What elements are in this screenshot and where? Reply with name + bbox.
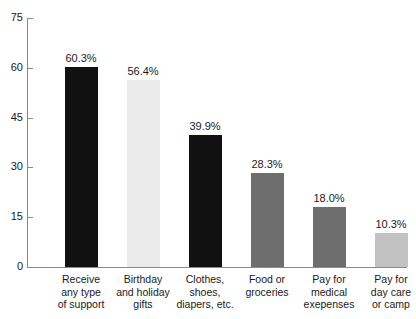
y-axis-tick-label-text: 45 [1,112,23,123]
y-axis-tick-label-text: 0 [1,261,23,272]
x-axis-line [27,267,407,268]
bar-value-label: 60.3% [50,52,112,64]
bar[interactable] [65,67,98,267]
bar-value-label: 39.9% [174,120,236,132]
x-axis-category-label-line: Pay for [354,273,416,286]
plot-area: 60.3%56.4%39.9%28.3%18.0%10.3% [28,18,407,267]
y-axis-tick-label: 0 [0,261,23,272]
y-axis-tick-label-text: 75 [1,12,23,23]
y-axis-tick-label-text: 15 [1,211,23,222]
bar-value-label: 18.0% [298,192,360,204]
bar[interactable] [375,233,408,267]
y-axis-tick-label: 30 [0,161,23,172]
bar-value-label: 10.3% [360,218,416,230]
bar-slot: 56.4% [112,18,174,267]
bar-slot: 28.3% [236,18,298,267]
y-axis-tick-label: 15 [0,211,23,222]
y-axis-tick-label: 75 [0,12,23,23]
bar-slot: 60.3% [50,18,112,267]
bar-value-label: 28.3% [236,158,298,170]
x-axis-category-label-line: diapers, etc. [168,298,242,311]
y-axis-tick-label: 45 [0,112,23,123]
x-axis-category-label-line: day care [354,286,416,299]
bar-slot: 18.0% [298,18,360,267]
x-axis-category-label-line: or camp [354,298,416,311]
bar[interactable] [127,80,160,267]
bar[interactable] [189,135,222,267]
bar-slot: 39.9% [174,18,236,267]
y-axis-tick-label-text: 60 [1,62,23,73]
y-axis-tick-label: 60 [0,62,23,73]
bar[interactable] [251,173,284,267]
y-axis-tick [27,267,33,268]
bar[interactable] [313,207,346,267]
bar-slot: 10.3% [360,18,416,267]
bar-value-label: 56.4% [112,65,174,77]
x-axis-category-label: Pay forday careor camp [354,273,416,311]
y-axis-tick-label-text: 30 [1,161,23,172]
